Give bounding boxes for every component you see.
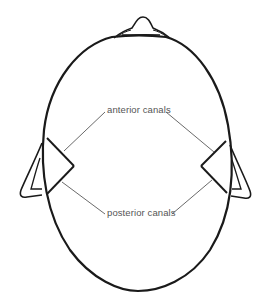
head-diagram: anterior canals posterior canals xyxy=(0,0,271,300)
left-canals xyxy=(47,138,74,194)
nose xyxy=(114,17,170,38)
left-ear xyxy=(20,143,42,197)
anterior-canals-label: anterior canals xyxy=(107,104,171,115)
head-diagram-svg xyxy=(0,0,271,300)
posterior-canals-label: posterior canals xyxy=(107,207,176,218)
right-canals xyxy=(201,141,227,193)
right-ear xyxy=(230,145,251,198)
anterior-leaders xyxy=(64,112,214,152)
